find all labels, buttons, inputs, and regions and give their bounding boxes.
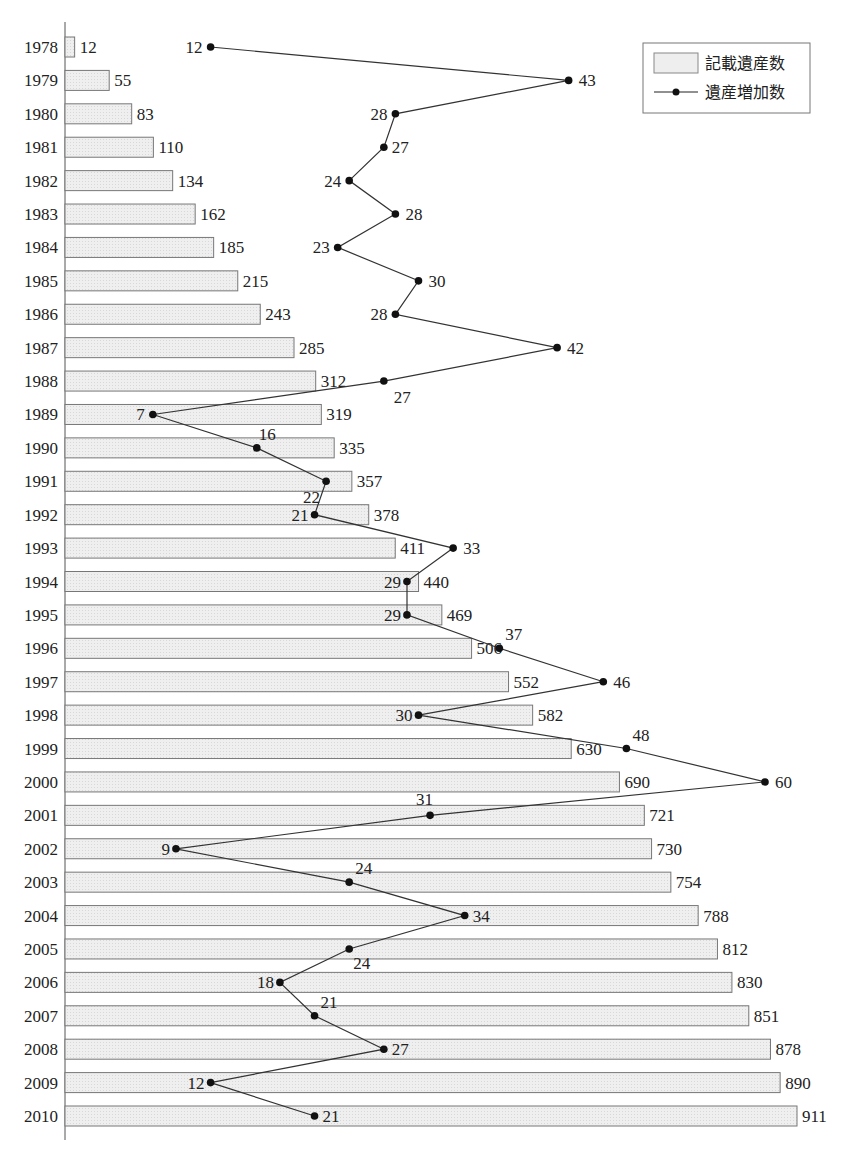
year-label: 1993 [24,539,58,558]
bar [65,137,153,157]
year-label: 1987 [24,339,59,358]
line-value-label: 60 [775,773,792,792]
line-value-label: 27 [392,138,410,157]
bar [65,1106,797,1126]
line-value-label: 29 [384,606,401,625]
line-marker-icon [345,945,353,953]
line-marker-icon [415,277,423,285]
year-label: 1988 [24,372,58,391]
year-label: 1989 [24,405,58,424]
year-label: 1998 [24,706,58,725]
bar [65,338,294,358]
year-label: 1996 [24,639,58,658]
line-marker-icon [449,544,457,552]
year-label: 1982 [24,172,58,191]
line-value-label: 24 [353,954,371,973]
bar [65,237,214,257]
year-label: 2002 [24,840,58,859]
year-label: 2008 [24,1040,58,1059]
bar [65,204,195,224]
year-label: 2004 [24,907,59,926]
line-value-label: 37 [505,625,522,644]
line-value-label: 21 [321,993,338,1012]
bar-value-label: 12 [80,38,97,57]
line-marker-icon [415,711,423,719]
line-value-label: 12 [188,1074,205,1093]
bar [65,972,732,992]
year-label: 2000 [24,773,58,792]
bar-value-label: 812 [722,940,748,959]
line-marker-icon [334,244,342,252]
line-marker-icon [345,177,353,185]
year-label: 1980 [24,105,58,124]
line-marker-icon [380,1045,388,1053]
line-value-label: 46 [613,673,630,692]
bar [65,739,571,759]
bar [65,772,619,792]
line-marker-icon [600,678,608,686]
bar [65,638,472,658]
line-value-label: 31 [416,790,433,809]
bar [65,939,717,959]
line-marker-icon [392,210,400,218]
line-marker-icon [623,745,631,753]
bar-value-label: 357 [357,472,383,491]
year-label: 1999 [24,740,58,759]
bar-value-label: 440 [424,573,450,592]
line-value-label: 29 [384,573,401,592]
bar-value-label: 754 [676,873,702,892]
line-value-label: 28 [370,105,387,124]
line-marker-icon [311,1112,319,1120]
line-value-label: 9 [161,840,170,859]
year-label: 1994 [24,573,59,592]
line-marker-icon [565,77,573,85]
bar [65,1039,770,1059]
line-value-label: 21 [323,1107,340,1126]
bar-value-label: 285 [299,339,325,358]
bar-value-label: 830 [737,973,763,992]
year-label: 2009 [24,1074,58,1093]
bar-value-label: 552 [514,673,540,692]
legend-label-line: 遺産増加数 [705,83,785,102]
bar-value-label: 110 [158,138,183,157]
line-value-label: 12 [186,38,203,57]
line-marker-icon [207,43,215,51]
line-marker-icon [553,344,561,352]
line-marker-icon [253,444,261,452]
line-value-label: 28 [370,305,387,324]
year-label: 1997 [24,673,59,692]
line-value-label: 27 [392,1040,410,1059]
bar-value-label: 469 [447,606,473,625]
line-value-label: 24 [355,859,373,878]
bar-value-label: 878 [775,1040,801,1059]
bar [65,1006,749,1026]
year-label: 1984 [24,238,59,257]
line-value-label: 42 [567,339,584,358]
bar [65,438,334,458]
line-value-label: 27 [394,388,412,407]
line-value-label: 48 [632,726,649,745]
line-value-label: 22 [303,488,320,507]
year-label: 2001 [24,806,58,825]
bar-value-label: 582 [538,706,564,725]
bar-value-label: 243 [265,305,291,324]
bar [65,304,260,324]
bar-value-label: 134 [178,172,204,191]
bar-value-label: 335 [339,439,365,458]
line-value-label: 30 [429,272,446,291]
line-marker-icon [311,1012,319,1020]
bar [65,70,109,90]
bar-value-label: 185 [219,238,245,257]
legend-bar-swatch [654,53,698,73]
year-label: 2003 [24,873,58,892]
year-label: 2006 [24,973,58,992]
line-marker-icon [403,611,411,619]
bar [65,371,316,391]
legend-marker-icon [673,89,680,96]
year-label: 1992 [24,506,58,525]
line-marker-icon [461,912,469,920]
line-value-label: 30 [396,706,413,725]
bar-value-label: 911 [802,1107,827,1126]
line-marker-icon [426,812,434,820]
line-value-label: 18 [257,973,274,992]
